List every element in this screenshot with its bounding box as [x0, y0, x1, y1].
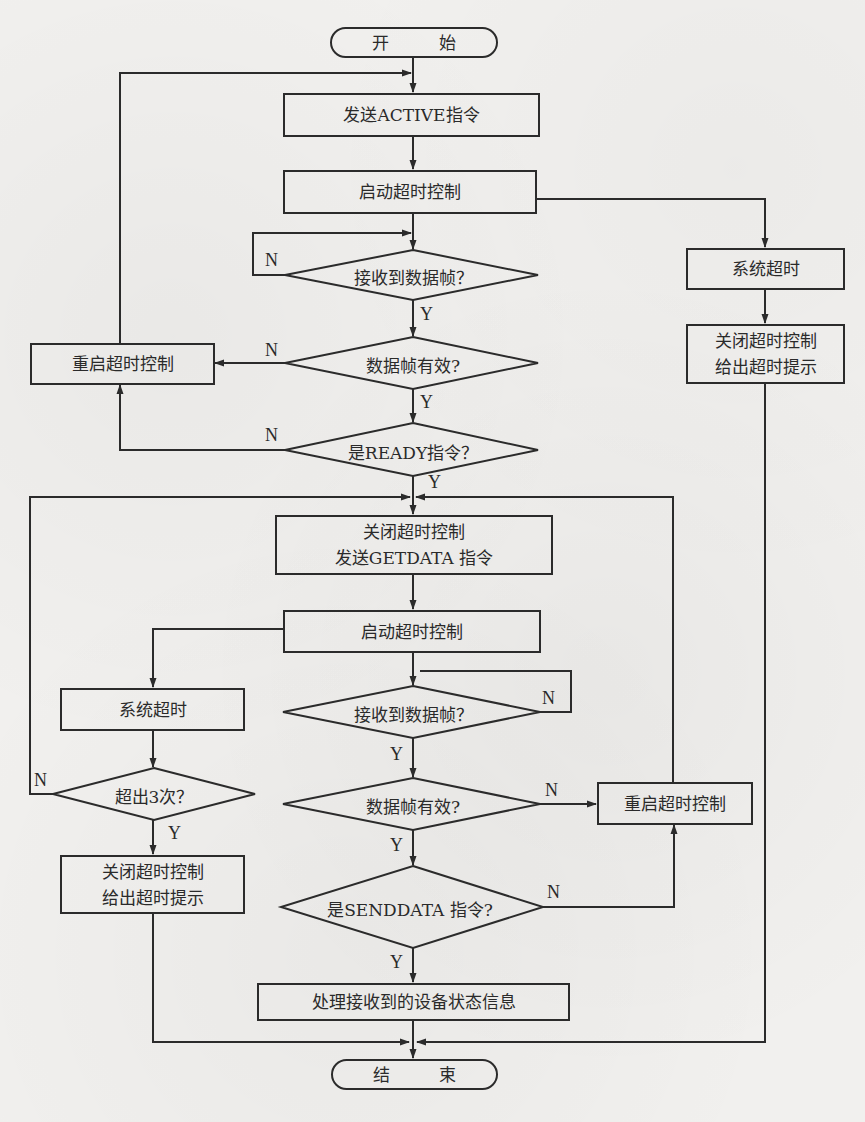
- process-close-send-getdata: 关闭超时控制 发送GETDATA 指令: [275, 515, 553, 575]
- end-terminal: 结 束: [331, 1059, 498, 1090]
- decision-recv-frame-1-label: 接收到数据帧？: [354, 264, 473, 289]
- start-terminal: 开 始: [330, 27, 498, 58]
- process-close-timeout-2-line2: 给出超时提示: [102, 885, 204, 911]
- process-restart-timeout-1: 重启超时控制: [30, 343, 215, 385]
- label-n-exceed-3: N: [34, 770, 47, 791]
- label-y-valid-2: Y: [390, 835, 403, 856]
- process-close-timeout-1-line2: 给出超时提示: [715, 354, 817, 380]
- label-y-ready: Y: [428, 472, 441, 493]
- decision-frame-valid-1-label: 数据帧有效?: [366, 352, 460, 377]
- label-n-senddata: N: [547, 882, 560, 903]
- process-send-active: 发送ACTIVE指令: [283, 93, 540, 137]
- label-n-recv-2: N: [542, 688, 555, 709]
- process-close-send-getdata-line2: 发送GETDATA 指令: [335, 545, 493, 571]
- process-close-timeout-1-line1: 关闭超时控制: [715, 328, 817, 354]
- process-system-timeout-2-label: 系统超时: [119, 697, 187, 723]
- process-restart-timeout-2-label: 重启超时控制: [624, 791, 726, 817]
- label-y-valid-1: Y: [420, 392, 433, 413]
- label-y-exceed-3: Y: [168, 823, 181, 844]
- process-start-timeout-1: 启动超时控制: [283, 170, 537, 214]
- process-system-timeout-2: 系统超时: [60, 688, 245, 731]
- decision-is-ready-label: 是READY指令？: [348, 439, 478, 464]
- process-start-timeout-2: 启动超时控制: [283, 610, 541, 653]
- process-handle-status-label: 处理接收到的设备状态信息: [312, 989, 516, 1015]
- process-restart-timeout-1-label: 重启超时控制: [72, 351, 174, 377]
- process-system-timeout-1: 系统超时: [686, 248, 845, 290]
- label-y-recv-1: Y: [420, 304, 433, 325]
- decision-recv-frame-2-label: 接收到数据帧？: [354, 701, 473, 726]
- process-close-timeout-2: 关闭超时控制 给出超时提示: [60, 855, 245, 914]
- process-send-active-label: 发送ACTIVE指令: [343, 102, 479, 128]
- label-y-recv-2: Y: [390, 744, 403, 765]
- process-close-timeout-1: 关闭超时控制 给出超时提示: [686, 324, 845, 384]
- process-restart-timeout-2: 重启超时控制: [597, 782, 753, 825]
- process-handle-status: 处理接收到的设备状态信息: [257, 983, 570, 1021]
- process-close-send-getdata-line1: 关闭超时控制: [363, 519, 465, 545]
- label-y-senddata: Y: [390, 952, 403, 973]
- decision-is-senddata-label: 是SENDDATA 指令?: [327, 896, 493, 921]
- label-n-valid-2: N: [545, 780, 558, 801]
- process-start-timeout-2-label: 启动超时控制: [361, 619, 463, 645]
- label-n-valid-1: N: [265, 340, 278, 361]
- process-system-timeout-1-label: 系统超时: [732, 256, 800, 282]
- decision-frame-valid-2-label: 数据帧有效?: [366, 793, 460, 818]
- decision-exceed-3-label: 超出3次？: [115, 783, 194, 808]
- process-start-timeout-1-label: 启动超时控制: [359, 179, 461, 205]
- label-n-recv-1: N: [265, 250, 278, 271]
- process-close-timeout-2-line1: 关闭超时控制: [102, 859, 204, 885]
- label-n-ready: N: [265, 425, 278, 446]
